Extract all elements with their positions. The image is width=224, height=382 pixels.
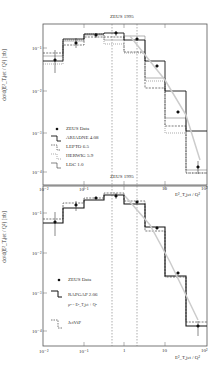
top-legend-symbols <box>51 128 61 168</box>
bottom-ytick-2: 10⁻² <box>32 250 42 256</box>
bottom-x-axis-label: E²_T,jet / Q² <box>175 355 200 360</box>
legend-rapgap: RAPGAP 2.06 <box>68 292 98 297</box>
bottom-data-points <box>54 193 200 336</box>
legend-bottom-zeus-data: ZEUS Data <box>68 277 91 282</box>
legend-herwig: HERWIG 5.9 <box>66 153 93 158</box>
bottom-curve <box>125 196 198 320</box>
legend-rapgap-scale: μ² = E²_T,jet + Q² <box>68 302 97 307</box>
bottom-ytick-1: 10⁻¹ <box>32 210 42 216</box>
bottom-xtick-4: 10 <box>162 348 167 353</box>
top-x-axis-label: E²_T,jet / Q² <box>175 192 200 197</box>
legend-jetvip: JetViP <box>68 320 81 325</box>
top-ytick-4: 10⁻⁴ <box>32 169 42 175</box>
top-xtick-4: 10 <box>162 186 167 191</box>
bottom-xtick-2: 10⁻¹ <box>79 348 89 354</box>
legend-ldc: LDC 1.0 <box>66 162 84 167</box>
bottom-y-axis-label: dσ/d(E²_T,jet / Q²) [nb] <box>1 211 7 263</box>
bottom-xtick-1: 10⁻² <box>39 348 49 354</box>
figure-canvas <box>0 0 224 382</box>
ldc-histogram <box>43 35 207 170</box>
top-ytick-2: 10⁻² <box>32 88 42 94</box>
legend-zeus-data: ZEUS Data <box>66 126 89 131</box>
top-plot-frame <box>43 24 207 185</box>
top-xtick-1: 10⁻² <box>39 186 49 192</box>
bottom-plot-title: ZEUS 1995 <box>110 174 134 179</box>
top-plot-title: ZEUS 1995 <box>110 14 134 19</box>
ariadne-histogram <box>43 33 207 131</box>
bottom-ytick-3: 10⁻³ <box>32 290 42 296</box>
top-ytick-1: 10⁻¹ <box>32 45 42 51</box>
bottom-xtick-3: 1 <box>123 348 126 353</box>
legend-ariadne: ARIADNE 4.08 <box>66 135 99 140</box>
top-ytick-3: 10⁻³ <box>32 130 42 136</box>
bottom-xtick-5: 10² <box>201 348 208 353</box>
top-xtick-2: 10⁻¹ <box>79 186 89 192</box>
top-xtick-5: 10² <box>201 186 208 191</box>
top-y-axis-label: dσ/d(E²_T,jet / Q²) [nb] <box>1 49 7 101</box>
bottom-ytick-4: 10⁻⁴ <box>32 328 42 334</box>
legend-lepto: LEPTO 6.5 <box>66 144 89 149</box>
bottom-legend-symbols <box>51 279 62 328</box>
